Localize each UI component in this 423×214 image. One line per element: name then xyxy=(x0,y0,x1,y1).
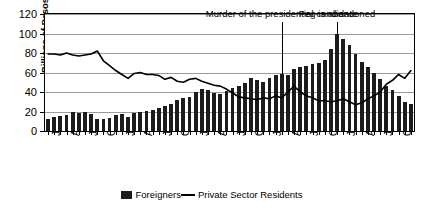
legend-label-foreigners: Foreigners xyxy=(136,190,181,200)
legend-item-private-sector-residents: Private Sector Residents xyxy=(181,190,303,200)
chart-container: Billions of Pesos 020406080100120 Jan-91… xyxy=(0,0,423,214)
annotations-layer: Murder of the presidential candidatePeg … xyxy=(0,0,423,214)
annotation-label: Peg is abandoned xyxy=(299,8,376,19)
annotation-pointer xyxy=(337,22,338,34)
legend-item-foreigners: Foreigners xyxy=(121,190,181,200)
line-swatch-icon xyxy=(181,194,195,196)
bar-swatch-icon xyxy=(121,191,132,199)
chart-legend: Foreigners Private Sector Residents xyxy=(0,190,423,200)
annotation-pointer xyxy=(282,22,283,74)
legend-label-private-sector-residents: Private Sector Residents xyxy=(198,190,303,200)
